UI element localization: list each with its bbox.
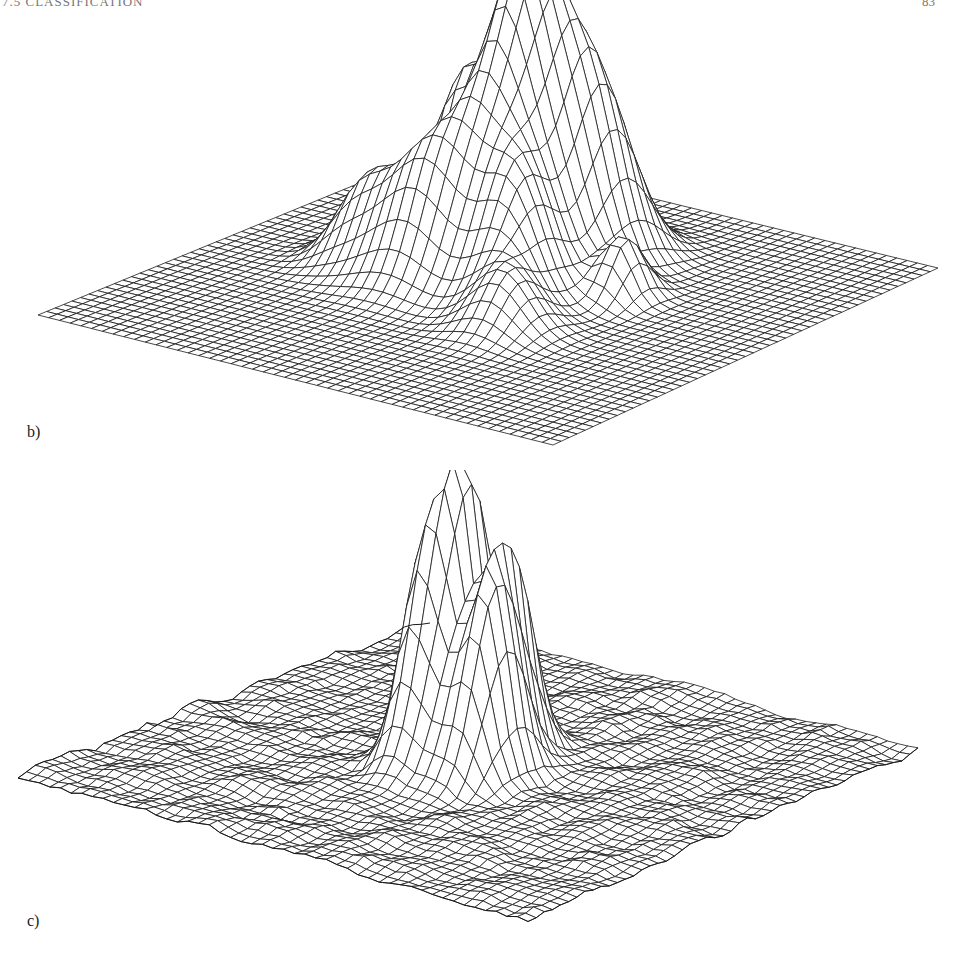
wireframe-surface-plot-c xyxy=(0,470,955,954)
panel-label-b: b) xyxy=(27,423,40,441)
figure-panel-c: c) xyxy=(0,470,955,954)
panel-label-c: c) xyxy=(27,912,39,930)
wireframe-surface-plot-b xyxy=(0,0,955,470)
figure-panel-b: b) xyxy=(0,0,955,470)
